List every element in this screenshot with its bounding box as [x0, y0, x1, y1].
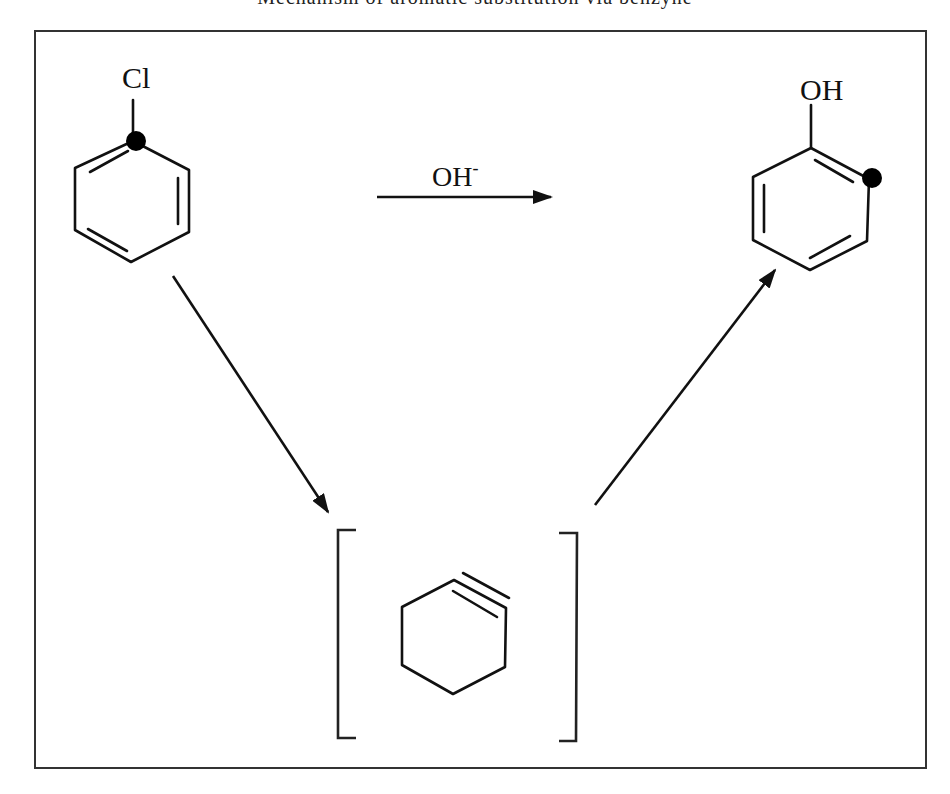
- arrow-to-intermediate: [173, 276, 328, 512]
- chlorobenzene-ring: [75, 141, 189, 262]
- triple-bond-line: [463, 573, 509, 598]
- labeled-carbon-dot: [862, 168, 882, 188]
- phenol-ring: [753, 148, 869, 270]
- reagent-arrow: OH-: [377, 158, 551, 197]
- benzyne-intermediate: [338, 530, 577, 741]
- reaction-scheme: Cl OH- OH: [0, 0, 950, 794]
- benzyne-ring: [402, 580, 506, 694]
- chlorobenzene-molecule: Cl: [75, 61, 189, 262]
- arrow-to-product: [595, 270, 775, 505]
- left-bracket: [338, 530, 356, 738]
- right-bracket: [559, 533, 577, 741]
- double-bond-line: [815, 160, 853, 182]
- labeled-carbon-dot: [126, 131, 146, 151]
- chlorine-label: Cl: [122, 61, 150, 94]
- double-bond-line: [810, 236, 850, 258]
- double-bond-line: [90, 151, 128, 172]
- triple-bond-line: [453, 591, 497, 617]
- diagram-frame: [35, 31, 926, 768]
- hydroxyl-label: OH: [800, 73, 843, 106]
- reagent-label: OH-: [432, 158, 478, 192]
- phenol-molecule: OH: [753, 73, 882, 270]
